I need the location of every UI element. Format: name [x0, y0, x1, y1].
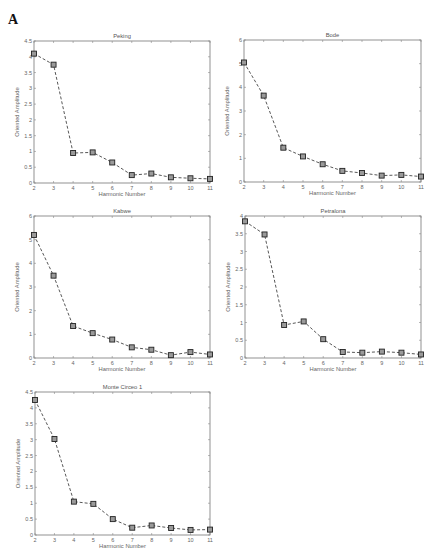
square-marker-icon	[71, 499, 76, 504]
y-axis-label: Oriented Amplitude	[15, 439, 21, 488]
square-marker-icon	[129, 173, 134, 178]
y-tick-label: 3	[29, 85, 32, 91]
y-tick-label: 2	[240, 284, 243, 290]
y-tick-label: 2.5	[235, 266, 243, 272]
x-tick-label: 10	[187, 360, 193, 366]
square-marker-icon	[32, 232, 37, 237]
square-marker-icon	[208, 352, 213, 357]
x-tick-label: 4	[72, 537, 75, 543]
y-tick-label: 3	[239, 108, 242, 114]
square-marker-icon	[399, 172, 404, 177]
square-marker-icon	[149, 171, 154, 176]
square-marker-icon	[379, 349, 384, 354]
y-tick-label: 1.5	[235, 302, 243, 308]
x-axis-label: Harmonic Number	[98, 191, 145, 197]
chart-title: Petralona	[321, 208, 347, 214]
square-marker-icon	[320, 162, 325, 167]
x-tick-label: 3	[52, 185, 55, 191]
line-chart-monte-circeo-1: Monte Circeo 100.511.522.533.544.5234567…	[35, 392, 210, 535]
y-tick-label: 1.5	[24, 133, 32, 139]
y-tick-label: 1.5	[25, 484, 33, 490]
x-tick-label: 11	[207, 185, 213, 191]
plot-frame	[34, 216, 210, 358]
y-tick-label: 0.5	[235, 337, 243, 343]
chart-title: Kabwe	[113, 208, 131, 214]
line-chart-petralona: Petralona00.511.522.533.54234567891011Ha…	[245, 216, 421, 358]
y-tick-label: 0.5	[24, 164, 32, 170]
x-tick-label: 5	[92, 537, 95, 543]
x-tick-label: 9	[170, 537, 173, 543]
chart-title: Peking	[113, 33, 131, 39]
y-tick-label: 2	[239, 132, 242, 138]
plot-frame	[34, 41, 210, 183]
square-marker-icon	[188, 527, 193, 532]
x-tick-label: 10	[187, 185, 193, 191]
square-marker-icon	[149, 347, 154, 352]
y-tick-label: 6	[239, 37, 242, 43]
square-marker-icon	[149, 523, 154, 528]
square-marker-icon	[52, 437, 57, 442]
y-tick-label: 3	[29, 284, 32, 290]
y-tick-label: 0.5	[25, 516, 33, 522]
square-marker-icon	[90, 150, 95, 155]
square-marker-icon	[51, 62, 56, 67]
chart-title: Monte Circeo 1	[103, 384, 142, 390]
square-marker-icon	[208, 527, 213, 532]
y-tick-label: 3	[240, 249, 243, 255]
square-marker-icon	[130, 525, 135, 530]
x-tick-label: 9	[169, 185, 172, 191]
x-tick-label: 5	[91, 360, 94, 366]
x-tick-label: 2	[32, 360, 35, 366]
y-tick-label: 2	[29, 308, 32, 314]
square-marker-icon	[281, 145, 286, 150]
x-tick-label: 9	[380, 184, 383, 190]
square-marker-icon	[91, 501, 96, 506]
y-tick-label: 3.5	[24, 70, 32, 76]
x-tick-label: 2	[32, 185, 35, 191]
square-marker-icon	[301, 319, 306, 324]
y-tick-label: 4	[30, 405, 33, 411]
x-tick-label: 4	[72, 185, 75, 191]
y-tick-label: 3.5	[25, 421, 33, 427]
y-tick-label: 4	[239, 84, 242, 90]
y-tick-label: 1	[240, 320, 243, 326]
x-axis-label: Harmonic Number	[309, 366, 356, 372]
x-tick-label: 3	[53, 537, 56, 543]
data-series-line	[244, 62, 421, 176]
x-tick-label: 11	[418, 360, 424, 366]
y-tick-label: 1	[239, 155, 242, 161]
square-marker-icon	[51, 273, 56, 278]
x-tick-label: 3	[263, 360, 266, 366]
line-chart-peking: Peking00.511.522.533.544.5234567891011Ha…	[34, 41, 210, 183]
x-tick-label: 5	[91, 185, 94, 191]
square-marker-icon	[169, 526, 174, 531]
square-marker-icon	[110, 337, 115, 342]
x-tick-label: 8	[360, 184, 363, 190]
square-marker-icon	[71, 324, 76, 329]
data-series-line	[35, 400, 210, 530]
y-tick-label: 2.5	[25, 453, 33, 459]
square-marker-icon	[340, 349, 345, 354]
data-series-line	[34, 235, 210, 355]
line-chart-bode: Bode0123456234567891011Harmonic NumberOr…	[244, 40, 421, 182]
square-marker-icon	[33, 397, 38, 402]
line-chart-kabwe: Kabwe0123456234567891011Harmonic NumberO…	[34, 216, 210, 358]
x-tick-label: 2	[243, 360, 246, 366]
x-axis-label: Harmonic Number	[99, 543, 146, 549]
x-tick-label: 5	[301, 184, 304, 190]
data-series-line	[245, 221, 421, 354]
square-marker-icon	[168, 353, 173, 358]
plot-frame	[245, 216, 421, 358]
square-marker-icon	[242, 60, 247, 65]
x-tick-label: 4	[282, 184, 285, 190]
y-tick-label: 3.5	[235, 231, 243, 237]
y-axis-label: Oriented Amplitude	[14, 87, 20, 136]
x-tick-label: 3	[52, 360, 55, 366]
square-marker-icon	[360, 171, 365, 176]
x-tick-label: 3	[262, 184, 265, 190]
square-marker-icon	[71, 151, 76, 156]
square-marker-icon	[110, 517, 115, 522]
y-tick-label: 2	[30, 468, 33, 474]
square-marker-icon	[243, 219, 248, 224]
plot-frame	[35, 392, 210, 535]
